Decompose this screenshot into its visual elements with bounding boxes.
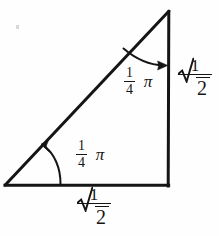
bottom-angle-numerator: 1 [76, 139, 87, 155]
bottom-side-denominator: 2 [77, 204, 111, 231]
right-side-denominator: 2 [178, 75, 212, 102]
top-angle-arrowhead [158, 61, 168, 70]
radical-sign-icon [180, 76, 196, 99]
bottom-angle-arc [41, 141, 61, 184]
right-side-length-label: 1 2 [178, 57, 212, 102]
right-side-fraction: 1 2 [178, 57, 212, 102]
bottom-angle-pi-symbol: π [96, 146, 105, 163]
top-angle-denominator: 4 [124, 82, 135, 97]
top-angle-pi-symbol: π [144, 73, 153, 90]
bottom-angle-denominator: 4 [76, 155, 87, 170]
bottom-angle-fraction: 1 4 [76, 139, 87, 170]
bottom-angle-label: 1 4 π [76, 139, 104, 170]
bottom-side-fraction: 1 2 [77, 186, 111, 231]
right-side-radical: 2 [180, 76, 210, 99]
bottom-side-length-label: 1 2 [77, 186, 111, 231]
top-angle-fraction: 1 4 [124, 66, 135, 97]
geometry-figure: 1 4 π 1 4 π 1 2 [0, 0, 219, 236]
triangle-vertical-leg-edge [168, 12, 169, 186]
bottom-side-radical: 2 [79, 205, 109, 228]
bottom-side-radicand: 2 [95, 206, 109, 228]
top-angle-label: 1 4 π [124, 66, 152, 97]
radical-sign-icon [79, 205, 95, 228]
right-side-radicand: 2 [196, 77, 210, 99]
top-angle-numerator: 1 [124, 66, 135, 82]
